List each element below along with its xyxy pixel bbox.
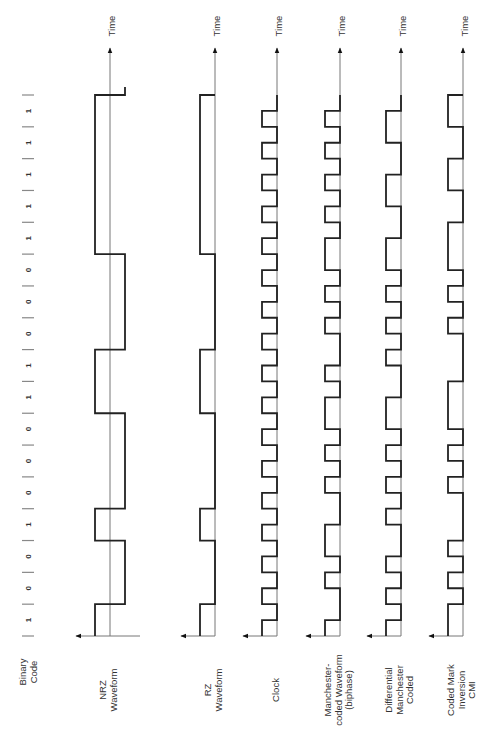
bit-value: 0 — [24, 267, 33, 272]
bit-value: 0 — [24, 554, 33, 559]
svg-text:1: 1 — [24, 204, 33, 209]
bit-value: 0 — [24, 490, 33, 495]
bit-value: 1 — [24, 108, 33, 113]
time-axis-label: Time — [211, 16, 222, 37]
bit-value: 1 — [24, 617, 33, 622]
row-clock: TimeClock — [243, 16, 284, 702]
svg-text:0: 0 — [24, 554, 33, 559]
bit-value: 0 — [24, 585, 33, 590]
svg-text:1: 1 — [24, 172, 33, 177]
label-cmi-line: Coded Mark — [445, 664, 456, 716]
line-coding-diagram: 10010001100011111BinaryCode TimeNRZWavef… — [0, 0, 490, 743]
svg-text:1: 1 — [24, 140, 33, 145]
row-nrz: TimeNRZWaveform — [76, 16, 140, 712]
label-differential-manchester-line: Coded — [404, 676, 415, 704]
binary-code-label-line: Code — [28, 661, 39, 684]
svg-text:Time: Time — [211, 16, 222, 37]
waveform-clock — [262, 95, 277, 636]
label-rz-line: Waveform — [213, 668, 224, 711]
time-axis-label: Time — [397, 16, 408, 37]
row-manchester: TimeManchester-coded Waveform(biphase) — [306, 16, 354, 726]
label-differential-manchester: DifferentialManchesterCoded — [383, 665, 415, 715]
label-cmi-line: CMI — [466, 681, 477, 698]
label-nrz-line: Waveform — [108, 668, 119, 711]
bit-value: 1 — [24, 522, 33, 527]
svg-text:0: 0 — [24, 267, 33, 272]
bit-value: 1 — [24, 140, 33, 145]
svg-text:0: 0 — [24, 490, 33, 495]
row-differential-manchester: TimeDifferentialManchesterCoded — [367, 16, 415, 715]
bit-value: 1 — [24, 363, 33, 368]
svg-text:0: 0 — [24, 331, 33, 336]
bit-value: 1 — [24, 204, 33, 209]
label-manchester: Manchester-coded Waveform(biphase) — [322, 654, 354, 726]
row-cmi: TimeCoded MarkInversionCMI — [429, 16, 477, 716]
time-axis-label: Time — [273, 16, 284, 37]
label-manchester-line: (biphase) — [343, 670, 354, 710]
svg-text:Time: Time — [273, 16, 284, 37]
svg-text:1: 1 — [24, 395, 33, 400]
label-rz: RZWaveform — [202, 668, 224, 711]
label-nrz-line: NRZ — [97, 680, 108, 700]
svg-text:0: 0 — [24, 426, 33, 431]
time-axis-label: Time — [106, 16, 117, 37]
binary-code-label-line: Binary — [17, 658, 28, 685]
label-clock: Clock — [270, 678, 281, 702]
label-manchester-line: coded Waveform — [333, 654, 344, 726]
time-axis-label: Time — [459, 16, 470, 37]
svg-text:Time: Time — [397, 16, 408, 37]
label-manchester-line: Manchester- — [322, 664, 333, 717]
waveform-rz — [200, 95, 215, 636]
binary-code-column: 10010001100011111BinaryCode — [17, 95, 39, 685]
label-nrz: NRZWaveform — [97, 668, 119, 711]
bit-value: 0 — [24, 458, 33, 463]
waveform-canvas: 10010001100011111BinaryCode TimeNRZWavef… — [0, 0, 490, 743]
label-cmi-line: Inversion — [456, 671, 467, 710]
bit-value: 0 — [24, 331, 33, 336]
bit-value: 1 — [24, 235, 33, 240]
label-clock-line: Clock — [270, 678, 281, 702]
label-rz-line: RZ — [202, 683, 213, 696]
bit-value: 1 — [24, 395, 33, 400]
svg-text:1: 1 — [24, 235, 33, 240]
time-axis-label: Time — [336, 16, 347, 37]
label-differential-manchester-line: Differential — [383, 667, 394, 712]
waveform-rows: TimeNRZWaveformTimeRZWaveformTimeClockTi… — [76, 16, 477, 726]
bit-value: 1 — [24, 172, 33, 177]
waveform-differential-manchester — [386, 95, 401, 636]
bit-value: 0 — [24, 299, 33, 304]
svg-text:Time: Time — [459, 16, 470, 37]
svg-text:Time: Time — [106, 16, 117, 37]
svg-text:1: 1 — [24, 617, 33, 622]
svg-text:1: 1 — [24, 363, 33, 368]
svg-text:1: 1 — [24, 522, 33, 527]
svg-text:Time: Time — [336, 16, 347, 37]
waveform-cmi — [448, 95, 463, 636]
label-cmi: Coded MarkInversionCMI — [445, 664, 477, 716]
svg-text:0: 0 — [24, 458, 33, 463]
waveform-manchester — [325, 95, 340, 636]
svg-text:0: 0 — [24, 585, 33, 590]
binary-code-label: BinaryCode — [17, 658, 39, 685]
row-rz: TimeRZWaveform — [181, 16, 224, 712]
svg-text:1: 1 — [24, 108, 33, 113]
svg-text:0: 0 — [24, 299, 33, 304]
bit-value: 0 — [24, 426, 33, 431]
label-differential-manchester-line: Manchester — [394, 665, 405, 715]
